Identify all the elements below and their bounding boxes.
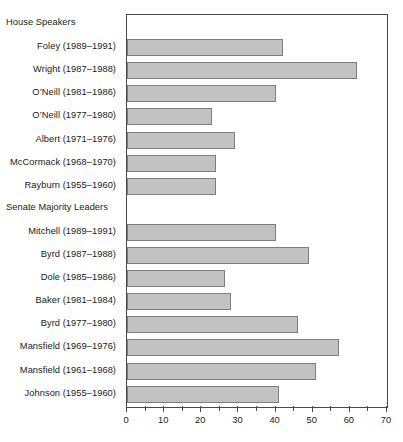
category-label: Johnson (1955–1960) xyxy=(25,388,116,399)
bar xyxy=(127,339,339,356)
x-tick-major xyxy=(349,406,350,412)
x-tick-major xyxy=(126,406,127,412)
x-axis-tick-labels: 010203040506070 xyxy=(0,414,403,430)
group-header-1: House Speakers xyxy=(6,17,75,28)
category-label-column: House SpeakersFoley (1989–1991)Wright (1… xyxy=(0,0,122,442)
category-label: Dole (1985–1986) xyxy=(41,272,116,283)
bar xyxy=(127,178,216,195)
x-tick-label: 10 xyxy=(158,414,168,426)
bar-chart: House SpeakersFoley (1989–1991)Wright (1… xyxy=(0,0,403,442)
x-tick-label: 50 xyxy=(307,414,317,426)
x-tick-major xyxy=(386,406,387,412)
bar xyxy=(127,85,276,102)
category-label: Albert (1971–1976) xyxy=(36,134,117,145)
bar xyxy=(127,108,212,125)
x-tick-minor xyxy=(256,406,257,411)
category-label: Mansfield (1969–1976) xyxy=(20,341,116,352)
category-label: Mitchell (1989–1991) xyxy=(28,226,116,237)
x-tick-label: 20 xyxy=(195,414,205,426)
category-label: Foley (1989–1991) xyxy=(37,41,116,52)
category-label: Rayburn (1955–1960) xyxy=(25,180,116,191)
x-tick-minor xyxy=(367,406,368,411)
category-label: Byrd (1987–1988) xyxy=(41,249,116,260)
bar xyxy=(127,363,316,380)
x-tick-major xyxy=(163,406,164,412)
x-tick-minor xyxy=(330,406,331,411)
x-tick-label: 40 xyxy=(269,414,279,426)
bar xyxy=(127,39,283,56)
x-tick-minor xyxy=(219,406,220,411)
category-label: Baker (1981–1984) xyxy=(36,295,116,306)
x-tick-minor xyxy=(182,406,183,411)
bar xyxy=(127,224,276,241)
bars-layer xyxy=(127,15,387,407)
category-label: O’Neill (1981–1986) xyxy=(32,87,116,98)
bar xyxy=(127,316,298,333)
x-tick-minor xyxy=(145,406,146,411)
x-tick-label: 70 xyxy=(381,414,391,426)
x-tick-label: 60 xyxy=(344,414,354,426)
x-tick-label: 30 xyxy=(232,414,242,426)
plot-area xyxy=(126,14,388,408)
x-axis-ticks xyxy=(126,406,388,414)
bar xyxy=(127,155,216,172)
x-tick-major xyxy=(275,406,276,412)
x-tick-minor xyxy=(293,406,294,411)
bar xyxy=(127,247,309,264)
x-tick-major xyxy=(200,406,201,412)
category-label: McCormack (1968–1970) xyxy=(10,157,116,168)
bar xyxy=(127,386,279,403)
x-tick-major xyxy=(237,406,238,412)
bar xyxy=(127,62,357,79)
category-label: O’Neill (1977–1980) xyxy=(32,110,116,121)
x-tick-major xyxy=(312,406,313,412)
category-label: Wright (1987–1988) xyxy=(33,64,116,75)
bar xyxy=(127,132,235,149)
category-label: Byrd (1977–1980) xyxy=(41,318,116,329)
bar xyxy=(127,293,231,310)
group-header-2: Senate Majority Leaders xyxy=(6,202,108,213)
bar xyxy=(127,270,225,287)
x-tick-label: 0 xyxy=(123,414,128,426)
category-label: Mansfield (1961–1968) xyxy=(20,365,116,376)
